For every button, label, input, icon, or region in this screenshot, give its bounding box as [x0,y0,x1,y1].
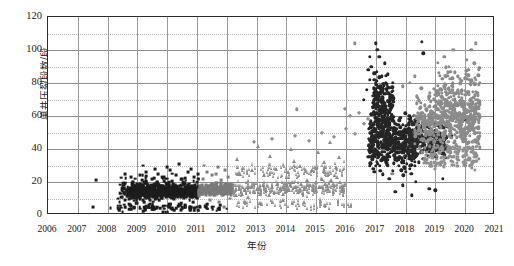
data-point [436,61,439,64]
data-point [177,205,180,208]
data-point [413,75,416,78]
data-point [238,192,240,196]
data-point [188,199,191,202]
data-point [147,207,150,210]
data-point [468,134,471,137]
y-axis-tick-label: 40 [2,143,42,154]
data-point [353,42,356,45]
data-point [218,200,221,203]
data-point [393,190,396,193]
data-point [288,172,290,176]
data-point [429,100,432,103]
data-point [286,181,288,185]
data-point [222,188,225,191]
data-point [218,206,221,209]
data-point [197,209,200,212]
data-point [341,202,343,206]
data-point [291,200,293,204]
data-point [216,166,219,169]
data-point [314,185,316,189]
data-point [197,172,200,175]
data-point [118,192,121,195]
data-point [420,131,423,134]
data-point [235,188,237,192]
data-point [334,161,336,165]
data-point [316,164,318,168]
data-point [378,75,381,78]
data-point [295,108,298,111]
data-point [129,192,132,195]
data-point [456,164,459,167]
data-point [263,182,265,186]
data-point [124,182,127,185]
data-point [269,162,271,166]
y-axis-tick-label: 120 [2,11,42,22]
data-point [248,173,250,177]
data-point [205,187,208,190]
data-point [336,185,338,189]
data-point [265,189,267,193]
data-point [332,168,334,172]
data-point [333,173,335,177]
data-point [162,205,165,208]
data-point [362,98,365,101]
data-point [348,114,353,119]
data-point [477,119,480,122]
data-point [152,177,155,180]
data-point [238,204,240,208]
data-point [293,167,295,171]
data-point [197,178,200,181]
data-point [419,106,422,109]
data-point [268,186,270,190]
data-point [151,203,154,206]
data-point [298,173,300,177]
data-point [249,190,251,194]
data-point [275,167,277,171]
data-point [178,162,181,165]
data-point [300,188,302,192]
data-point [347,202,349,206]
data-point [365,88,368,91]
data-point [248,167,250,171]
data-point [289,147,293,151]
data-point [465,69,468,72]
data-point [182,183,185,186]
data-point [130,176,133,179]
data-point [324,204,326,208]
data-point [297,201,299,205]
data-point [391,169,394,172]
data-point [422,52,425,55]
data-point [478,113,481,116]
data-point [280,165,282,169]
data-point [343,166,345,170]
data-point [135,191,138,194]
y-axis-tick-label: 100 [2,44,42,55]
data-point [271,183,273,187]
data-point [271,188,273,192]
data-point [386,73,389,76]
data-point [253,182,255,186]
data-point [425,109,428,112]
data-point [297,184,299,188]
data-point [210,206,213,209]
data-point [245,191,247,195]
data-point [269,137,274,142]
data-point [210,174,213,177]
data-point [335,183,337,187]
data-point [152,193,155,196]
data-point [391,81,394,84]
data-point [171,172,174,175]
data-point [472,61,475,64]
data-point [330,171,332,175]
data-point [118,200,121,203]
data-point [342,185,344,189]
data-point [192,180,195,183]
data-point [467,74,470,77]
data-point [423,104,426,107]
data-point [187,184,190,187]
data-point [322,186,324,190]
data-point [135,187,138,190]
data-point [274,203,276,207]
data-point [94,179,97,182]
data-point [343,159,345,163]
